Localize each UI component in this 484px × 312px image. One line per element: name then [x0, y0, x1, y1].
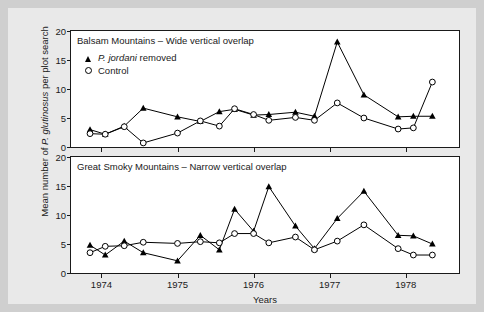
- circle-marker: [175, 241, 181, 247]
- x-tick-label: 1974: [91, 279, 112, 290]
- circle-marker: [361, 115, 367, 121]
- x-tick-mark: [178, 273, 179, 278]
- circle-marker: [266, 240, 272, 246]
- x-tick-label: 1978: [395, 279, 416, 290]
- y-tick-label: 15: [46, 55, 66, 66]
- x-tick-mark: [178, 147, 179, 152]
- triangle-marker: [197, 232, 204, 238]
- x-tick-mark: [101, 273, 102, 278]
- x-tick-mark: [330, 147, 331, 152]
- circle-marker: [121, 124, 127, 130]
- circle-marker: [216, 240, 222, 246]
- y-tick-mark: [67, 31, 71, 32]
- triangle-marker: [361, 91, 368, 97]
- circle-marker: [175, 130, 181, 136]
- x-tick-label: 1977: [319, 279, 340, 290]
- x-tick-mark: [406, 273, 407, 278]
- series-plot-smoky: [71, 157, 459, 273]
- circle-marker: [361, 222, 367, 228]
- chart-panel-smoky: Great Smoky Mountains – Narrow vertical …: [70, 156, 460, 274]
- circle-marker: [102, 243, 108, 249]
- circle-marker: [312, 247, 318, 253]
- y-tick-label: 0: [46, 268, 66, 279]
- circle-marker: [395, 126, 401, 132]
- triangle-marker: [140, 249, 147, 255]
- triangle-marker: [292, 223, 299, 229]
- y-tick-label: 10: [46, 84, 66, 95]
- y-tick-mark: [67, 147, 71, 148]
- circle-marker: [216, 123, 222, 129]
- triangle-marker: [361, 188, 368, 194]
- chart-panel-balsam: Balsam Mountains – Wide vertical overlap…: [70, 30, 460, 148]
- y-tick-mark: [67, 273, 71, 274]
- circle-marker: [87, 250, 93, 256]
- y-tick-label: 10: [46, 210, 66, 221]
- circle-marker: [102, 131, 108, 137]
- circle-marker: [197, 118, 203, 124]
- x-axis-label: Years: [70, 294, 460, 305]
- triangle-marker: [429, 241, 436, 247]
- circle-marker: [232, 231, 238, 237]
- circle-marker: [232, 106, 238, 112]
- y-tick-label: 20: [46, 152, 66, 163]
- y-tick-label: 5: [46, 239, 66, 250]
- y-tick-label: 15: [46, 181, 66, 192]
- x-tick-label: 1975: [167, 279, 188, 290]
- y-tick-mark: [67, 89, 71, 90]
- triangle-marker: [266, 183, 273, 189]
- y-tick-mark: [67, 186, 71, 187]
- y-tick-mark: [67, 118, 71, 119]
- y-tick-label: 20: [46, 26, 66, 37]
- triangle-marker: [231, 206, 238, 212]
- y-tick-label: 5: [46, 113, 66, 124]
- x-tick-mark: [406, 147, 407, 152]
- y-tick-mark: [67, 157, 71, 158]
- circle-marker: [266, 117, 272, 123]
- circle-marker: [140, 140, 146, 146]
- x-tick-mark: [101, 147, 102, 152]
- circle-marker: [410, 252, 416, 258]
- circle-marker: [251, 112, 257, 118]
- circle-marker: [410, 125, 416, 131]
- triangle-marker: [216, 246, 223, 252]
- y-tick-mark: [67, 244, 71, 245]
- circle-marker: [121, 243, 127, 249]
- y-tick-mark: [67, 215, 71, 216]
- series-line: [90, 82, 432, 143]
- series-plot-balsam: [71, 31, 459, 147]
- x-tick-mark: [254, 147, 255, 152]
- x-tick-mark: [330, 273, 331, 278]
- circle-marker: [312, 117, 318, 123]
- triangle-marker: [334, 39, 341, 45]
- figure-panel: Mean number of P. glutinosus per plot se…: [8, 8, 476, 304]
- series-line: [90, 187, 432, 261]
- triangle-marker: [140, 105, 147, 111]
- circle-marker: [395, 246, 401, 252]
- triangle-marker: [87, 242, 94, 248]
- circle-marker: [429, 252, 435, 258]
- x-tick-label: 1976: [243, 279, 264, 290]
- circle-marker: [293, 115, 299, 121]
- circle-marker: [140, 239, 146, 245]
- circle-marker: [334, 100, 340, 106]
- series-line: [90, 42, 432, 134]
- y-tick-mark: [67, 60, 71, 61]
- circle-marker: [429, 79, 435, 85]
- triangle-marker: [102, 252, 109, 258]
- circle-marker: [251, 231, 257, 237]
- circle-marker: [293, 234, 299, 240]
- x-tick-mark: [254, 273, 255, 278]
- circle-marker: [334, 238, 340, 244]
- triangle-marker: [292, 109, 299, 115]
- circle-marker: [197, 239, 203, 245]
- circle-marker: [87, 131, 93, 137]
